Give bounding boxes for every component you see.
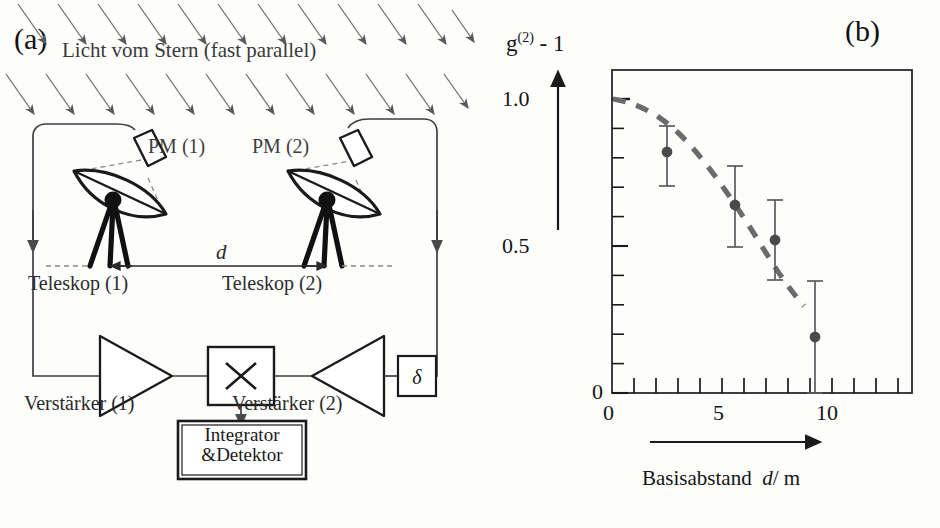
starlight-rays [18,4,474,44]
panel-a-apparatus: (a) Licht vom Stern (fast parallel) [0,0,470,528]
data-point-3 [767,200,783,280]
cable-left [33,124,135,376]
integrator-box-label: Integrator &Detektor [181,425,303,464]
data-point-4 [807,281,823,393]
data-point-2 [727,166,743,247]
baseline-symbol-label: d [216,240,227,265]
amplifier-1-label: Verstärker (1) [24,392,135,415]
chart-drawing [470,0,940,528]
panel-b-chart: (b) g(2) - 1 1.0 0.5 0 0 5 10 Basisabsta… [470,0,940,528]
amplifier-2-label: Verstärker (2) [232,392,343,415]
delay-box: δ [398,356,436,396]
pm-tube-2 [340,130,372,166]
x-axis-ticks [634,378,898,393]
integrator-line-2: &Detektor [181,445,303,465]
y-axis-ticks [612,99,630,393]
data-series-measured [659,126,823,393]
delay-symbol: δ [412,366,422,388]
starlight-rays-row2 [6,74,468,114]
integrator-line-1: Integrator [181,425,303,445]
data-point-1 [659,126,675,186]
figure-root: (a) Licht vom Stern (fast parallel) [0,0,940,528]
pm1-label: PM (1) [148,135,205,158]
telescope-2-label: Teleskop (2) [222,272,322,295]
pm2-label: PM (2) [252,135,309,158]
telescope-1-label: Teleskop (1) [28,272,128,295]
